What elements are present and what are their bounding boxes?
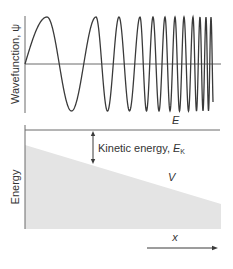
arrowhead-up-icon [91, 131, 95, 136]
energy-panel: E V Energy Kinetic energy, EK x [9, 114, 221, 250]
arrowhead-down-icon [91, 159, 95, 164]
position-axis-arrow [147, 246, 218, 251]
wavefunction-axis-label: Wavefunction, ψ [9, 24, 21, 104]
potential-energy-region [25, 145, 221, 229]
arrowhead-right-icon [212, 246, 218, 251]
energy-axis-label: Energy [9, 169, 21, 204]
kinetic-energy-label: Kinetic energy, EK [98, 142, 185, 155]
wavefunction-energy-diagram: Wavefunction, ψ E V Energy Kinetic energ… [0, 0, 233, 269]
wavefunction-panel: Wavefunction, ψ [9, 16, 221, 113]
total-energy-label: E [172, 114, 180, 126]
potential-energy-label: V [168, 171, 177, 183]
position-axis-label: x [171, 231, 178, 243]
kinetic-energy-arrow [91, 131, 95, 164]
